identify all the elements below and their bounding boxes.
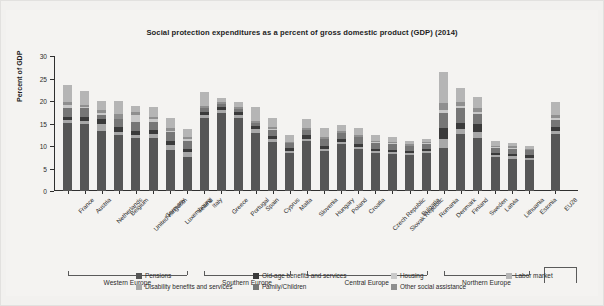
legend-item[interactable]: Disability benefits and services xyxy=(136,283,232,290)
bar-lithuania[interactable] xyxy=(508,143,517,191)
bar-segment xyxy=(131,122,140,131)
bar-austria[interactable] xyxy=(80,91,89,191)
legend-item[interactable]: Pensions xyxy=(136,272,171,279)
bar-cyprus[interactable] xyxy=(268,118,277,191)
x-tick-label: Italy xyxy=(211,196,224,209)
bar-segment xyxy=(473,138,482,191)
bar-denmark[interactable] xyxy=(439,72,448,191)
bar-croatia[interactable] xyxy=(354,128,363,191)
x-tick xyxy=(555,191,556,194)
x-tick xyxy=(256,191,257,194)
legend-label: Other social assistance xyxy=(400,283,466,290)
legend-item[interactable]: Other social assistance xyxy=(391,283,466,290)
x-tick xyxy=(102,191,103,194)
bar-segment xyxy=(183,141,192,149)
x-tick xyxy=(478,191,479,194)
bar-estonia[interactable] xyxy=(525,146,534,191)
legend-swatch-icon xyxy=(506,273,512,279)
bar-romania[interactable] xyxy=(422,139,431,191)
bar-segment xyxy=(551,120,560,127)
bar-netherlands[interactable] xyxy=(97,101,106,191)
y-tick xyxy=(50,169,54,170)
bar-segment xyxy=(508,159,517,191)
legend-swatch-icon xyxy=(253,273,259,279)
bar-spain[interactable] xyxy=(251,107,260,191)
bar-eu28[interactable] xyxy=(551,102,560,192)
x-tick xyxy=(427,191,428,194)
bar-latvia[interactable] xyxy=(491,141,500,191)
bar-malta[interactable] xyxy=(285,135,294,191)
bar-segment xyxy=(320,139,329,146)
bar-france[interactable] xyxy=(63,85,72,191)
y-tick-label: 10 xyxy=(40,143,47,150)
bar-segment xyxy=(97,131,106,191)
x-tick xyxy=(221,191,222,194)
legend-label: Old-age benefits and services xyxy=(262,272,347,279)
bar-segment xyxy=(302,119,311,128)
bar-belgium[interactable] xyxy=(114,101,123,191)
bar-segment xyxy=(302,141,311,191)
bar-segment xyxy=(439,139,448,148)
bar-segment xyxy=(268,142,277,192)
bar-ireland[interactable] xyxy=(183,129,192,191)
bar-segment xyxy=(371,153,380,191)
bar-germany[interactable] xyxy=(149,107,158,191)
bar-segment xyxy=(439,113,448,129)
x-tick xyxy=(136,191,137,194)
bar-hungary[interactable] xyxy=(320,128,329,191)
y-tick-label: 5 xyxy=(43,165,47,172)
bar-poland[interactable] xyxy=(337,125,346,191)
x-tick xyxy=(324,191,325,194)
legend-swatch-icon xyxy=(136,273,142,279)
bar-finland[interactable] xyxy=(456,88,465,191)
x-tick xyxy=(273,191,274,194)
bar-czech-republic[interactable] xyxy=(371,135,380,191)
legend-swatch-icon xyxy=(391,284,397,290)
x-tick-label: Austria xyxy=(93,196,112,215)
bar-italy[interactable] xyxy=(200,92,209,191)
bar-segment xyxy=(80,124,89,191)
x-tick xyxy=(341,191,342,194)
bar-segment xyxy=(491,157,500,191)
y-tick xyxy=(50,124,54,125)
bar-segment xyxy=(80,91,89,105)
bar-segment xyxy=(63,85,72,101)
legend-row-1: PensionsOld-age benefits and servicesHou… xyxy=(6,272,598,283)
bar-greece[interactable] xyxy=(217,98,226,191)
bar-segment xyxy=(217,113,226,191)
x-tick xyxy=(512,191,513,194)
legend-label: Disability benefits and services xyxy=(145,283,232,290)
bar-bulgaria[interactable] xyxy=(405,141,414,191)
bar-portugal[interactable] xyxy=(234,102,243,191)
bar-segment xyxy=(166,132,175,141)
legend-item[interactable]: Old-age benefits and services xyxy=(253,272,347,279)
bar-segment xyxy=(149,107,158,117)
x-tick xyxy=(204,191,205,194)
bar-segment xyxy=(149,138,158,191)
x-tick xyxy=(239,191,240,194)
legend-item[interactable]: Labor market xyxy=(506,272,553,279)
bar-segment xyxy=(63,123,72,191)
x-tick-label: Germany xyxy=(163,196,186,219)
bar-segment xyxy=(551,134,560,191)
bar-slovak-republic[interactable] xyxy=(388,137,397,191)
bar-segment xyxy=(473,114,482,123)
bar-segment xyxy=(551,102,560,116)
legend-item[interactable]: Family/Children xyxy=(253,283,306,290)
bar-luxembourg[interactable] xyxy=(166,118,175,191)
bar-sweden[interactable] xyxy=(473,97,482,191)
legend-item[interactable]: Housing xyxy=(391,272,423,279)
chart-title: Social protection expenditures as a perc… xyxy=(6,28,598,37)
y-tick xyxy=(50,56,54,57)
bar-segment xyxy=(456,108,465,122)
bar-segment xyxy=(439,128,448,138)
x-tick xyxy=(410,191,411,194)
bar-united-kingdom[interactable] xyxy=(131,106,140,191)
bar-segment xyxy=(422,153,431,191)
x-tick xyxy=(529,191,530,194)
bar-segment xyxy=(439,148,448,191)
bar-slovenia[interactable] xyxy=(302,119,311,191)
y-tick xyxy=(50,191,54,192)
bar-segment xyxy=(234,118,243,191)
x-tick xyxy=(153,191,154,194)
